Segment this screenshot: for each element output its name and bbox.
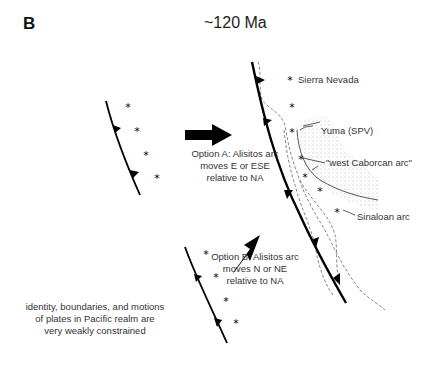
svg-text:*: * [143,149,149,162]
svg-text:*: * [125,101,131,114]
option-a-caption: Option A: Alisitos arc moves E or ESE re… [165,148,305,184]
label-sinaloan: Sinaloan arc [357,211,410,222]
arrow-east [185,124,232,146]
option-b-caption: Option B: Alisitos arc moves N or NE rel… [210,251,300,287]
trench-option-a [106,101,140,195]
svg-text:*: * [287,74,293,87]
svg-text:*: * [223,295,229,308]
label-west-caborcan: "west Caborcan arc" [326,157,412,168]
arc-stars: * * * * * * * * * * * * * * * [125,74,340,330]
label-yuma: Yuma (SPV) [321,125,373,136]
svg-text:*: * [154,172,160,185]
label-sierra-nevada: Sierra Nevada [298,74,359,85]
pacific-note: identity, boundaries, and motions of pla… [20,301,170,337]
svg-text:*: * [289,126,295,139]
svg-text:*: * [203,248,209,261]
svg-text:*: * [289,101,295,114]
svg-text:*: * [334,206,340,219]
svg-text:*: * [233,317,239,330]
svg-text:*: * [134,125,140,138]
svg-text:*: * [317,185,323,198]
